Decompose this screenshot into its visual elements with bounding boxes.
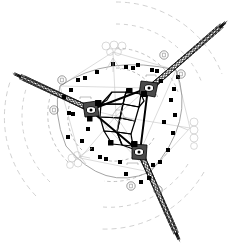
tag-right-b xyxy=(177,70,185,78)
dim-lower xyxy=(127,163,138,165)
dim-upper-right xyxy=(146,75,156,77)
diagram-canvas xyxy=(0,0,233,247)
dim-left xyxy=(80,97,91,99)
tag-lower-b xyxy=(127,182,135,190)
technical-diagram xyxy=(0,0,233,247)
tag-left-a xyxy=(58,76,66,84)
callout-right xyxy=(178,118,198,149)
boom-lower xyxy=(137,151,182,244)
tag-upper-right-a xyxy=(160,51,168,59)
construction-lines xyxy=(60,52,190,172)
